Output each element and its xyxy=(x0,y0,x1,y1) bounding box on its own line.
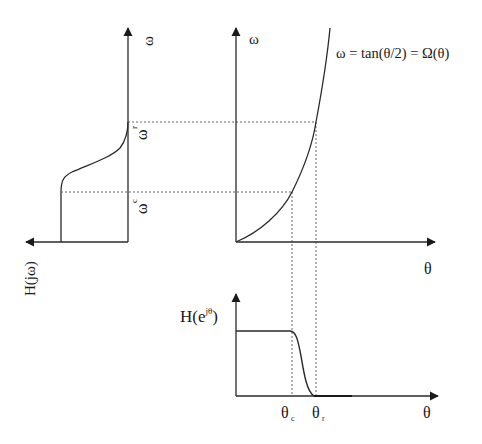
middle-omega-axis-label: ω xyxy=(249,31,259,47)
svg-text:r: r xyxy=(129,126,139,129)
analog-response-plot: ω ω r ω c H(jω) xyxy=(22,28,156,296)
omega-r-label: ω r xyxy=(129,126,150,140)
warping-curve-plot: ω θ ω = tan(θ/2) = Ω(θ) xyxy=(236,28,450,277)
digital-lowpass-curve xyxy=(236,331,352,396)
svg-text:θ: θ xyxy=(312,404,320,421)
svg-text:c: c xyxy=(291,414,295,423)
h-jomega-label: H(jω) xyxy=(22,261,39,296)
svg-text:θ: θ xyxy=(281,404,289,421)
svg-text:H(ejθ): H(ejθ) xyxy=(180,306,218,326)
left-omega-axis-label: ω xyxy=(140,36,156,46)
svg-text:c: c xyxy=(129,199,139,203)
digital-response-plot: H(ejθ) θ c θ r θ xyxy=(180,294,438,423)
svg-text:ω: ω xyxy=(133,129,150,140)
bilinear-warping-diagram: ω ω r ω c H(jω) ω θ ω = tan(θ/2) = Ω(θ) xyxy=(0,0,482,444)
svg-text:ω: ω xyxy=(133,203,150,214)
theta-r-label: θ r xyxy=(312,404,325,423)
h-ejtheta-label: H(ejθ) xyxy=(180,306,218,326)
warping-equation: ω = tan(θ/2) = Ω(θ) xyxy=(336,45,450,62)
bottom-theta-axis-label: θ xyxy=(423,404,431,421)
middle-theta-axis-label: θ xyxy=(424,260,432,277)
projection-guides xyxy=(61,122,316,396)
theta-c-label: θ c xyxy=(281,404,295,423)
svg-text:r: r xyxy=(322,414,325,423)
analog-lowpass-curve xyxy=(61,122,128,242)
omega-c-label: ω c xyxy=(129,199,150,214)
svg-text:H(jω): H(jω) xyxy=(22,261,39,296)
